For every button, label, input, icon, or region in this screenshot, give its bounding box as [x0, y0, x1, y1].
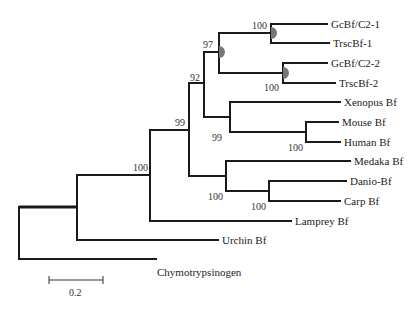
bootstrap-shark-clade: 97 — [203, 39, 213, 50]
bootstrap-tetrapod-shark: 92 — [190, 72, 200, 83]
bootstrap-gcbf2-trsc2: 100 — [264, 82, 279, 93]
scale-bar: 0.2 — [49, 276, 103, 298]
node-marker — [271, 27, 277, 39]
taxon-chymotrypsinogen: Chymotrypsinogen — [157, 266, 242, 278]
taxon-trscbf-2: TrscBf-2 — [339, 77, 378, 89]
gcbf1-trsc1-node — [271, 24, 329, 43]
node-marker — [219, 46, 225, 58]
tetrapod-shark-node — [204, 52, 230, 117]
taxon-gcbf-c2-2: GcBf/C2-2 — [331, 57, 380, 69]
taxon-urchin: Urchin Bf — [222, 234, 267, 246]
bootstrap-mammal-xenopus: 99 — [212, 132, 222, 143]
taxon-carp: Carp Bf — [344, 195, 379, 207]
phylogenetic-tree: GcBf/C2-1 TrscBf-1 GcBf/C2-2 TrscBf-2 Xe… — [0, 0, 420, 309]
teleost-node — [226, 161, 350, 191]
taxon-trscbf-1: TrscBf-1 — [333, 37, 372, 49]
mammal-node — [306, 122, 340, 142]
bootstrap-gcbf1-trsc1: 100 — [252, 20, 267, 31]
taxon-human: Human Bf — [344, 136, 390, 148]
root-branches — [19, 207, 156, 259]
scale-bar-label: 0.2 — [69, 287, 82, 298]
bootstrap-danio-carp: 100 — [251, 201, 266, 212]
bootstrap-vertebrate: 100 — [133, 162, 148, 173]
deuterostome-node — [77, 175, 218, 240]
taxon-xenopus: Xenopus Bf — [344, 96, 397, 108]
shark-clade-node — [219, 33, 283, 73]
gnathostome-node — [189, 83, 226, 176]
taxon-gcbf-c2-1: GcBf/C2-1 — [331, 18, 380, 30]
gcbf2-trsc2-node — [283, 63, 335, 83]
bootstrap-gnathostome: 99 — [175, 117, 185, 128]
taxon-medaka: Medaka Bf — [354, 155, 404, 167]
bootstrap-mouse-human: 100 — [288, 142, 303, 153]
cyprinid-node — [269, 181, 346, 201]
taxon-mouse: Mouse Bf — [342, 116, 386, 128]
bootstrap-teleost: 100 — [208, 191, 223, 202]
taxon-danio: Danio-Bf — [350, 175, 392, 187]
tetrapod-node — [230, 102, 340, 132]
taxon-lamprey: Lamprey Bf — [295, 215, 349, 227]
node-marker — [283, 67, 289, 79]
